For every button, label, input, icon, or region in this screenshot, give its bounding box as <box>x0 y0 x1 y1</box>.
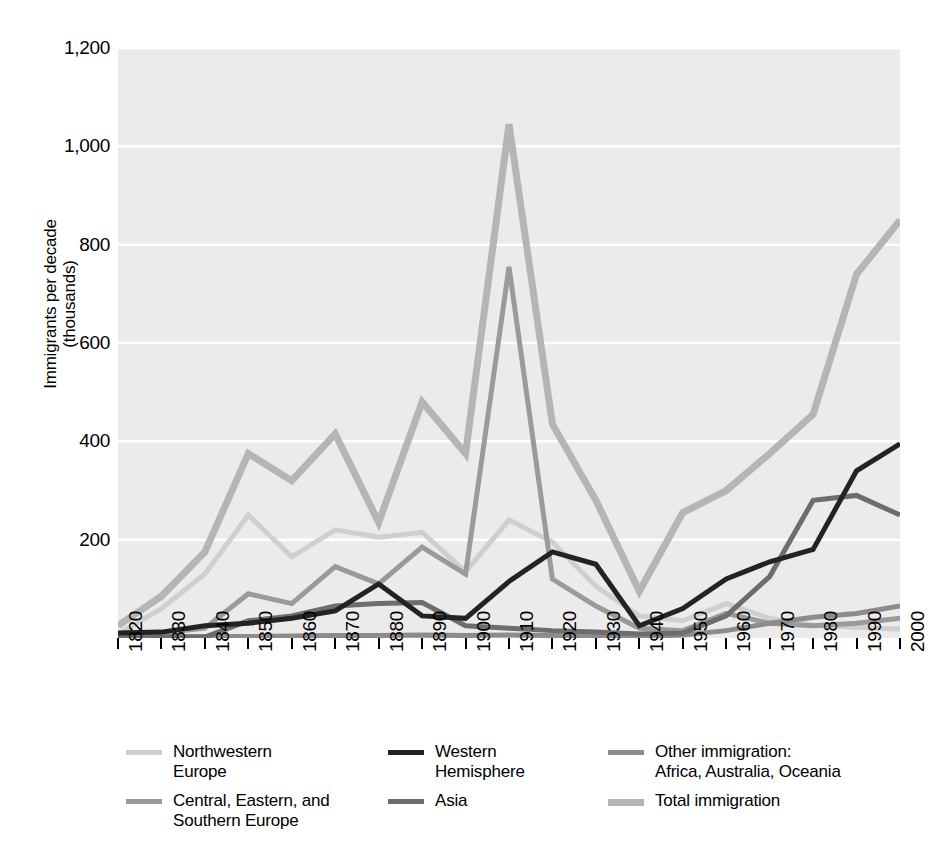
legend-swatch-icon <box>388 750 424 755</box>
legend-entry: Western Hemisphere <box>388 742 608 782</box>
x-tick-mark <box>725 638 727 649</box>
x-tick-mark <box>595 638 597 649</box>
x-tick-label: 1970 <box>778 611 797 652</box>
y-tick-label: 1,000 <box>2 136 110 155</box>
legend-swatch-icon <box>608 750 644 755</box>
x-tick-label: 1940 <box>647 611 666 652</box>
legend-column-3: Other immigration: Africa, Australia, Oc… <box>608 742 928 820</box>
chart-legend: Northwestern EuropeCentral, Eastern, and… <box>118 742 918 847</box>
legend-swatch-icon <box>608 799 644 806</box>
legend-swatch-icon <box>388 799 424 804</box>
legend-label: Other immigration: Africa, Australia, Oc… <box>655 742 841 782</box>
x-tick-label: 1820 <box>126 611 145 652</box>
immigration-chart-figure: Immigrants per decade (thousands) 1,2001… <box>0 0 937 851</box>
x-tick-label: 1830 <box>169 611 188 652</box>
x-tick-mark <box>247 638 249 649</box>
legend-entry: Asia <box>388 791 608 811</box>
x-tick-label: 1850 <box>256 611 275 652</box>
x-tick-label: 1980 <box>821 611 840 652</box>
y-tick-label: 1,200 <box>2 38 110 57</box>
x-tick-label: 1870 <box>343 611 362 652</box>
legend-label: Asia <box>435 791 467 811</box>
legend-entry: Other immigration: Africa, Australia, Oc… <box>608 742 928 782</box>
x-tick-mark <box>508 638 510 649</box>
x-tick-mark <box>204 638 206 649</box>
legend-label: Central, Eastern, and Southern Europe <box>173 791 329 831</box>
y-tick-label: 800 <box>2 235 110 254</box>
x-tick-label: 1910 <box>517 611 536 652</box>
x-tick-mark <box>291 638 293 649</box>
x-tick-label: 1860 <box>300 611 319 652</box>
legend-swatch-icon <box>126 799 162 804</box>
legend-entry: Central, Eastern, and Southern Europe <box>126 791 381 831</box>
x-tick-label: 1900 <box>474 611 493 652</box>
legend-column-1: Northwestern EuropeCentral, Eastern, and… <box>126 742 381 840</box>
plot-area <box>118 48 900 638</box>
y-tick-label: 200 <box>2 530 110 549</box>
x-tick-mark <box>334 638 336 649</box>
x-tick-mark <box>812 638 814 649</box>
legend-label: Northwestern Europe <box>173 742 272 782</box>
legend-column-2: Western HemisphereAsia <box>388 742 608 820</box>
y-tick-label: 600 <box>2 333 110 352</box>
x-tick-mark <box>856 638 858 649</box>
legend-label: Total immigration <box>655 791 780 811</box>
x-tick-mark <box>899 638 901 649</box>
x-tick-label: 1840 <box>213 611 232 652</box>
x-tick-mark <box>378 638 380 649</box>
x-tick-mark <box>160 638 162 649</box>
legend-label: Western Hemisphere <box>435 742 525 782</box>
x-tick-label: 1930 <box>604 611 623 652</box>
x-tick-mark <box>117 638 119 649</box>
x-tick-mark <box>638 638 640 649</box>
x-tick-mark <box>551 638 553 649</box>
x-tick-mark <box>465 638 467 649</box>
x-tick-label: 1880 <box>387 611 406 652</box>
y-tick-label: 400 <box>2 431 110 450</box>
x-tick-mark <box>421 638 423 649</box>
legend-entry: Northwestern Europe <box>126 742 381 782</box>
x-tick-label: 2000 <box>908 611 927 652</box>
x-tick-label: 1890 <box>430 611 449 652</box>
plot-svg <box>118 48 900 638</box>
x-tick-label: 1990 <box>865 611 884 652</box>
x-tick-label: 1960 <box>734 611 753 652</box>
legend-entry: Total immigration <box>608 791 928 811</box>
legend-swatch-icon <box>126 750 162 755</box>
gridlines <box>118 48 900 540</box>
x-axis-ticks: 1820183018401850186018701880189019001910… <box>118 638 900 758</box>
x-tick-label: 1920 <box>560 611 579 652</box>
series-lines <box>118 124 900 637</box>
x-tick-mark <box>682 638 684 649</box>
x-tick-mark <box>769 638 771 649</box>
y-axis-tick-labels: 1,2001,000800600400200 <box>0 0 110 851</box>
x-tick-label: 1950 <box>691 611 710 652</box>
